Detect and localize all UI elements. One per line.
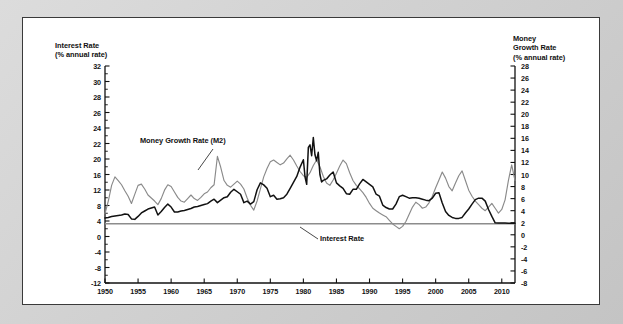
x-axis-tick-label: 1950 [97,287,113,296]
left-axis-tick-label: 28 [75,93,101,102]
left-axis-tick-label: 24 [75,124,101,133]
left-axis-tick-label: 0 [75,232,101,241]
right-axis-tick-label: 14 [521,146,529,155]
left-axis-tick-label: 32 [75,62,101,71]
figure-outer-frame: Interest Rate(% annual rate) MoneyGrowth… [0,0,623,324]
x-axis-tick-label: 1965 [196,287,212,296]
right-axis-tick-label: -4 [521,254,527,263]
left-axis-tick-label: 26 [75,108,101,117]
x-axis-tick-label: 1975 [263,287,279,296]
x-axis-tick-label: 1955 [130,287,146,296]
right-axis-tick-label: 28 [521,62,529,71]
x-axis-tick-label: 1990 [362,287,378,296]
figure-inner-panel: Interest Rate(% annual rate) MoneyGrowth… [22,17,600,305]
right-axis-tick-label: -6 [521,266,527,275]
x-axis-tick-label: 2000 [428,287,444,296]
right-axis-tick-label: 20 [521,110,529,119]
left-axis-tick-label: 4 [75,217,101,226]
right-axis-tick-label: 26 [521,74,529,83]
left-axis-tick-label: 8 [75,201,101,210]
left-axis-tick-label: 16 [75,170,101,179]
x-axis-tick-label: 1995 [395,287,411,296]
left-axis-tick-label: 30 [75,77,101,86]
right-axis-tick-label: 16 [521,134,529,143]
x-axis-tick-label: 1985 [329,287,345,296]
right-axis-tick-label: 4 [521,206,525,215]
right-axis-tick-label: -2 [521,242,527,251]
right-axis-tick-label: -8 [521,279,527,288]
x-axis-tick-label: 1970 [229,287,245,296]
left-axis-tick-label: -4 [75,248,101,257]
left-axis-tick-label: 20 [75,155,101,164]
x-axis-tick-label: 2010 [494,287,510,296]
left-axis-tick-label: 22 [75,139,101,148]
x-axis-tick-label: 2005 [461,287,477,296]
right-axis-tick-label: 2 [521,218,525,227]
left-axis-tick-label: -8 [75,263,101,272]
x-axis-tick-label: 1960 [163,287,179,296]
right-axis-tick-label: 8 [521,182,525,191]
series-annotation-interest-rate: Interest Rate [320,234,364,243]
series-annotation-money-growth: Money Growth Rate (M2) [140,136,226,145]
right-axis-tick-label: 18 [521,122,529,131]
x-axis-tick-label: 1980 [296,287,312,296]
chart-svg [23,18,601,306]
right-axis-tick-label: 6 [521,194,525,203]
right-axis-tick-label: 22 [521,98,529,107]
right-axis-tick-label: 0 [521,230,525,239]
left-axis-tick-label: 12 [75,186,101,195]
right-axis-tick-label: 12 [521,158,529,167]
chart-plot-area: 323028262422201612840-4-8-12282624222018… [23,18,601,306]
right-axis-tick-label: 24 [521,86,529,95]
right-axis-tick-label: 10 [521,170,529,179]
